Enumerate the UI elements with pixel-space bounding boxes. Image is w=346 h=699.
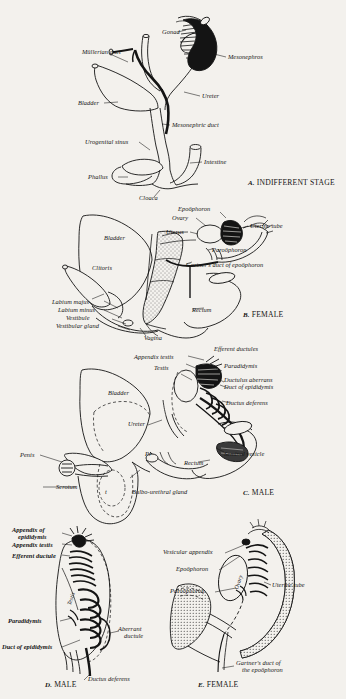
- label-c-bulbo-urethral-gland: Bulbo-urethral gland: [132, 488, 187, 495]
- label-d-duct-of-epididymis: Duct of epididymis: [2, 643, 52, 650]
- label-a-urogenital-sinus: Urogenital sinus: [85, 138, 128, 145]
- label-b-uterus: Uterus: [166, 228, 184, 235]
- label-e-paroophoron: Paroöphoron: [170, 587, 205, 594]
- label-c-efferent-ductules: Efferent ductules: [214, 345, 258, 352]
- label-a-mullerian-duct: Müllerian duct: [82, 48, 121, 55]
- label-c-duct-of-epididymis: Duct of epididymis: [224, 383, 273, 390]
- label-c-seminal-vesicle: Seminal vesicle: [224, 450, 264, 457]
- label-d-efferent-ductule: Efferent ductule: [12, 552, 56, 559]
- label-c-penis: Penis: [20, 451, 34, 458]
- label-c-ureter: Ureter: [128, 420, 145, 427]
- panel-e-artwork: [170, 519, 294, 672]
- label-c-rectum: Rectum: [184, 459, 203, 466]
- label-d-paradidymis: Paradidymis: [8, 617, 42, 624]
- panel-d-artwork: [56, 526, 111, 676]
- label-b-bladder: Bladder: [104, 234, 125, 241]
- label-e-uterine-tube: Uterine tube: [272, 581, 305, 588]
- label-d-appendix-testis: Appendix testis: [12, 541, 53, 548]
- label-c-prostate-marker: Pr: [145, 450, 152, 457]
- label-b-gartners-duct: Gartner's duct of epoöphoron: [186, 261, 263, 268]
- label-a-mesonephros: Mesonephros: [228, 53, 263, 60]
- caption-text: INDIFFERENT STAGE: [257, 178, 335, 187]
- caption-panel-e: E. FEMALE: [198, 680, 238, 689]
- label-d-ductus-deferens: Ductus deferens: [88, 675, 130, 682]
- caption-letter: A.: [248, 179, 257, 187]
- label-a-mesonephric-duct: Mesonephric duct: [172, 121, 219, 128]
- label-c-appendix-testis: Appendix testis: [134, 353, 174, 360]
- label-b-labium-majus: Labium majus: [52, 298, 89, 305]
- panel-a-artwork: [92, 16, 217, 189]
- caption-letter: B.: [243, 311, 252, 319]
- caption-panel-c: C. MALE: [243, 488, 274, 497]
- caption-panel-d: D. MALE: [45, 680, 76, 689]
- label-c-bladder: Bladder: [108, 389, 129, 396]
- label-a-phallus: Phallus: [88, 173, 108, 180]
- label-c-testis: Testis: [154, 364, 169, 371]
- caption-text: MALE: [54, 680, 76, 689]
- label-d-aberrant-ductule: Aberrantductule: [118, 625, 143, 639]
- caption-letter: D.: [45, 681, 54, 689]
- label-c-scrotum: Scrotum: [56, 483, 77, 490]
- label-b-ovary: Ovary: [172, 214, 188, 221]
- label-b-clitoris: Clitoris: [92, 264, 112, 271]
- label-a-gonad: Gonad: [162, 28, 180, 35]
- caption-panel-a: A. INDIFFERENT STAGE: [248, 178, 335, 187]
- caption-panel-b: B. FEMALE: [243, 310, 283, 319]
- label-e-gartners-duct: Gartner's duct ofthe epoöphoron: [236, 659, 283, 673]
- caption-letter: C.: [243, 489, 252, 497]
- caption-text: FEMALE: [207, 680, 239, 689]
- caption-text: FEMALE: [252, 310, 284, 319]
- urogenital-development-figure: GonadMüllerian ductMesonephrosBladderUre…: [0, 0, 346, 699]
- caption-text: MALE: [252, 488, 274, 497]
- label-b-rectum: Rectum: [192, 306, 211, 313]
- label-e-epoophoron: Epoöphoron: [176, 565, 208, 572]
- label-e-vesicular-appendix: Vesicular appendix: [163, 548, 213, 555]
- label-c-paradidymis: Paradidymis: [224, 362, 257, 369]
- label-a-ureter: Ureter: [202, 92, 219, 99]
- label-c-ductus-deferens: Ductus deferens: [226, 399, 268, 406]
- label-c-testis-marker: t: [105, 488, 107, 495]
- caption-letter: E.: [198, 681, 207, 689]
- label-a-intestine: Intestine: [204, 158, 226, 165]
- label-b-paroophoron: Paroöphoron: [212, 246, 247, 253]
- label-b-vestibule: Vestibule: [66, 314, 90, 321]
- label-d-appendix-of-epididymis: Appendix ofepididymis: [12, 526, 47, 540]
- label-b-uterine-tube: Uterine tube: [250, 222, 283, 229]
- label-b-vestibular-gland: Vestibular gland: [56, 322, 99, 329]
- label-a-cloaca: Cloaca: [139, 194, 158, 201]
- label-b-labium-minus: Labium minus: [58, 306, 95, 313]
- label-b-vagina: Vagina: [144, 334, 162, 341]
- label-b-epoophoron: Epoöphoron: [178, 205, 210, 212]
- label-a-bladder: Bladder: [78, 99, 99, 106]
